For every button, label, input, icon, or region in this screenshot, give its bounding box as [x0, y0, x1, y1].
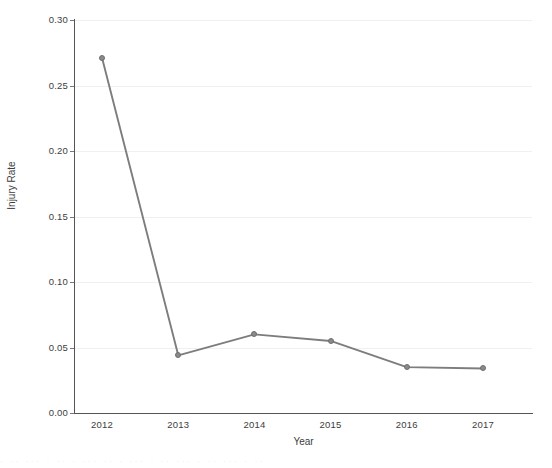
injury-rate-line-chart: Injury Rate 0.000.050.100.150.200.250.30… [0, 0, 552, 468]
data-point-marker [404, 364, 410, 370]
series-polyline [102, 58, 483, 368]
scan-artifact: · ·· ··· · ·· · ··· ·· · ··· · ·· ··· · … [0, 458, 552, 466]
data-point-marker [328, 338, 334, 344]
x-axis-title-label: Year [238, 436, 313, 447]
series-line [0, 0, 552, 468]
x-axis-title: Year [0, 436, 552, 447]
